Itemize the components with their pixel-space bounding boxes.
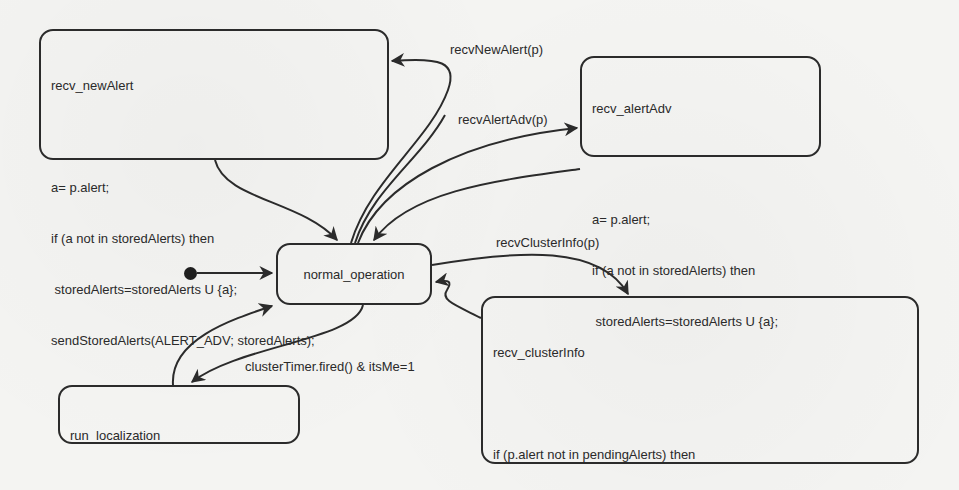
state-normal-operation: normal_operation	[276, 243, 432, 305]
state-run-localization: run_localization runLocalization(storedA…	[58, 385, 300, 444]
transition-label-clustertimer: clusterTimer.fired() & itsMe=1	[245, 359, 415, 374]
action-line: sendStoredAlerts(ALERT_ADV; storedAlerts…	[51, 332, 377, 349]
action-line: if (p.alert not in pendingAlerts) then	[493, 446, 907, 463]
state-recv-alertadv: recv_alertAdv a= p.alert; if (a not in s…	[580, 56, 821, 157]
state-recv-clusterinfo: recv_clusterInfo if (p.alert not in pend…	[481, 296, 919, 464]
state-title: recv_newAlert	[51, 77, 377, 94]
arrow-normal-to-alertadv	[358, 128, 577, 243]
state-title: run_localization	[70, 427, 288, 444]
diagram-canvas: recv_newAlert a= p.alert; if (a not in s…	[0, 0, 959, 490]
state-actions: if (p.alert not in pendingAlerts) then p…	[493, 412, 907, 490]
action-line: a= p.alert;	[51, 179, 377, 196]
state-recv-newalert: recv_newAlert a= p.alert; if (a not in s…	[39, 29, 389, 160]
transition-label-recvclusterinfo: recvClusterInfo(p)	[496, 235, 599, 250]
state-title: normal_operation	[303, 266, 404, 283]
transition-label-recvalertadv: recvAlertAdv(p)	[458, 112, 548, 127]
arrow-alertadv-to-normal	[374, 169, 580, 240]
state-title: recv_clusterInfo	[493, 344, 907, 361]
state-title: recv_alertAdv	[592, 100, 809, 117]
action-line: if (a not in storedAlerts) then	[592, 262, 809, 279]
transition-label-recvnewalert: recvNewAlert(p)	[450, 42, 543, 57]
arrow-clusterinfo-to-normal	[436, 281, 481, 318]
action-line: a= p.alert;	[592, 211, 809, 228]
